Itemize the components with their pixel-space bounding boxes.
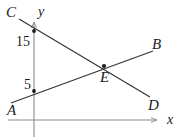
tick-label-15: 15: [16, 35, 30, 49]
line-ab: [11, 51, 153, 103]
dot-y-intercept-5: [32, 89, 36, 93]
point-label-d: D: [148, 98, 159, 113]
point-label-e: E: [100, 70, 109, 85]
y-axis-label: y: [38, 5, 44, 19]
line-cd: [19, 19, 150, 97]
x-axis-label: x: [167, 113, 173, 127]
tick-label-5: 5: [24, 78, 31, 92]
point-label-b: B: [152, 37, 161, 52]
figure-canvas: [0, 0, 178, 137]
point-label-c: C: [6, 5, 16, 20]
dot-intersection-e: [102, 64, 106, 68]
point-label-a: A: [7, 103, 16, 118]
dot-y-intercept-15: [32, 29, 36, 33]
geometry-figure: C y B 15 5 E A D x: [0, 0, 178, 137]
